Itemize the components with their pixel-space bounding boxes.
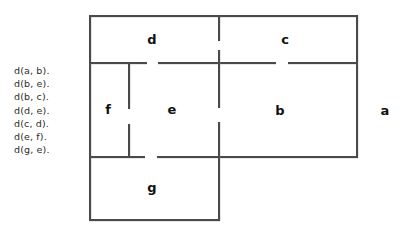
room-label-e: e bbox=[168, 102, 177, 117]
room-label-a: a bbox=[381, 103, 390, 118]
partition-e-f-lower bbox=[128, 124, 130, 158]
partition-c-d-upper bbox=[218, 15, 220, 41]
partition-e-f-upper bbox=[128, 62, 130, 109]
partition-g-e-right bbox=[157, 156, 220, 158]
exterior-wall-bottom-left bbox=[89, 219, 220, 221]
room-label-c: c bbox=[281, 32, 289, 47]
partition-b-e-lower bbox=[218, 122, 220, 158]
partition-b-c bbox=[288, 62, 358, 64]
exterior-wall-left-lower bbox=[89, 156, 91, 221]
exterior-wall-g-right bbox=[218, 156, 220, 221]
exterior-wall-bottom-right bbox=[218, 156, 358, 158]
room-label-g: g bbox=[147, 180, 156, 195]
partition-d-e-left bbox=[89, 62, 147, 64]
exterior-wall-right bbox=[356, 15, 358, 158]
room-label-f: f bbox=[105, 102, 111, 117]
floorplan-screenshot: d(a, b). d(b, e). d(b, c). d(d, e). d(c,… bbox=[0, 0, 408, 232]
partition-b-e-upper bbox=[218, 62, 220, 108]
exterior-wall-top bbox=[89, 15, 358, 17]
room-label-d: d bbox=[147, 32, 156, 47]
room-label-b: b bbox=[275, 103, 284, 118]
exterior-wall-left-upper bbox=[89, 15, 91, 158]
floor-plan-diagram: d c f e b g a bbox=[0, 0, 408, 232]
partition-g-e-left bbox=[89, 156, 145, 158]
partition-d-e-right bbox=[158, 62, 276, 64]
